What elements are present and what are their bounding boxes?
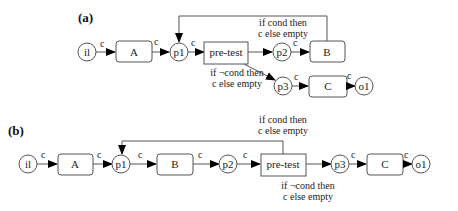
place-il: il [78,43,96,61]
task-pre-test: pre-test [261,154,306,176]
arc-label: c [404,149,409,160]
svg-text:B: B [171,158,178,170]
place-p1: p1 [170,43,188,61]
arc-label: c [294,71,299,82]
loop-arc-pretest-to-p1 [122,141,283,154]
svg-text:A: A [130,46,138,58]
svg-text:p1: p1 [116,158,127,170]
svg-text:p3: p3 [278,80,290,92]
task-a: A [116,41,152,62]
task-b: B [157,154,193,175]
true-condition-line1: if cond then [259,114,307,125]
svg-text:o1: o1 [416,158,427,170]
task-a: A [58,154,93,175]
arc-label: c [41,149,46,160]
svg-text:il: il [25,158,31,170]
true-condition-line2: c else empty [258,125,308,136]
panel-a-label: (a) [78,10,93,25]
false-condition-line1: if ¬cond then [210,67,263,78]
place-p3: p3 [331,155,349,173]
svg-text:pre-test: pre-test [267,158,300,170]
true-condition-line1: if cond then [259,17,307,28]
arc-label: c [154,36,159,47]
place-p3: p3 [274,77,292,95]
true-condition-line2: c else empty [258,28,308,39]
task-b: B [310,41,345,62]
place-p1: p1 [112,155,130,173]
false-condition-line2: c else empty [212,78,262,89]
task-c: C [309,76,347,97]
arc-label: c [138,149,143,160]
svg-text:p1: p1 [174,46,185,58]
place-p2: p2 [219,155,237,173]
place-il: il [19,155,37,173]
svg-text:B: B [323,46,330,58]
arc-label: c [347,70,352,81]
arc-label: c [293,37,298,48]
svg-text:C: C [324,80,331,92]
svg-text:p2: p2 [223,158,234,170]
panel-b-label: (b) [8,123,24,138]
svg-text:p3: p3 [335,158,347,170]
arc-label: c [351,149,356,160]
panel-b: (b) if cond then c else empty il c A c p… [8,114,430,202]
workflow-diagram: (a) il c A c p1 c pre-test if cond t [0,0,458,211]
place-p2: p2 [273,43,291,61]
place-o1: o1 [412,155,430,173]
place-o1: o1 [355,77,373,95]
arc-label: c [243,149,248,160]
arc-label: c [100,38,105,49]
task-pre-test: pre-test [204,42,248,64]
svg-text:o1: o1 [359,80,370,92]
svg-text:p2: p2 [277,46,288,58]
arc-label: c [191,37,196,48]
arc-label: c [198,149,203,160]
panel-a: (a) il c A c p1 c pre-test if cond t [78,10,373,97]
task-c: C [367,154,403,175]
false-condition-line2: c else empty [283,191,333,202]
svg-text:A: A [71,158,79,170]
svg-text:C: C [381,158,388,170]
false-condition-line1: if ¬cond then [281,180,334,191]
svg-text:pre-test: pre-test [210,46,243,58]
svg-text:il: il [84,46,90,58]
arc-label: c [97,149,102,160]
